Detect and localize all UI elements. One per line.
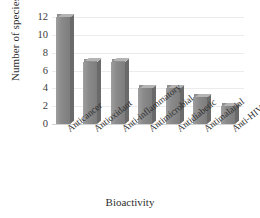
bar-side-face <box>97 58 101 124</box>
y-tick-label: 4 <box>26 83 48 94</box>
bar-top-face <box>139 85 152 88</box>
y-axis-tick-labels: 024681012 <box>24 17 48 124</box>
x-tick-label: Anti-HIV <box>230 126 236 134</box>
y-axis-title: Number of species <box>9 0 21 99</box>
bar-top-face <box>57 14 70 17</box>
bar[interactable] <box>56 17 70 124</box>
bar-side-face <box>125 58 129 124</box>
bar-side-face <box>70 14 74 124</box>
x-tick-label: Anticancer <box>65 126 71 134</box>
y-tick-label: 8 <box>26 48 48 59</box>
bar-top-face <box>84 59 97 62</box>
x-axis-tick-labels: AnticancerAntioxidantAnti-inflammatoryAn… <box>52 126 244 188</box>
y-tick-label: 12 <box>26 12 48 23</box>
x-tick-label: Antidiabetic <box>175 126 181 134</box>
x-tick-label: Antimicrobial <box>147 126 153 134</box>
y-tick-label: 2 <box>26 101 48 112</box>
bar-top-face <box>194 94 207 97</box>
x-tick-label: Anti-inflammatory <box>120 126 126 134</box>
y-tick-label: 6 <box>26 66 48 77</box>
y-tick-label: 0 <box>26 119 48 130</box>
x-tick-label: Antioxidant <box>92 126 98 134</box>
x-axis-title: Bioactivity <box>0 196 260 208</box>
y-tick-label: 10 <box>26 30 48 41</box>
bar-top-face <box>112 59 125 62</box>
x-tick-label: Antimalarial <box>202 126 208 134</box>
bar-chart: Number of species 024681012 AnticancerAn… <box>0 0 260 218</box>
